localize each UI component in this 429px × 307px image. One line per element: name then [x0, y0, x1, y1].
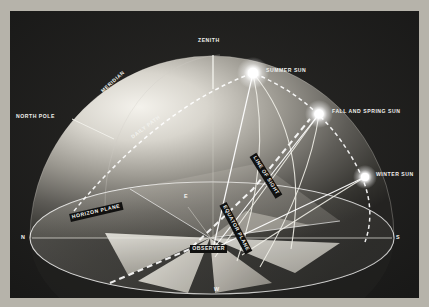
observer-label: OBSERVER: [190, 245, 227, 253]
compass-west-label: W: [214, 287, 219, 292]
zenith-label: ZENITH: [198, 38, 220, 43]
north-pole-label: NORTH POLE: [16, 114, 55, 119]
winter-sun-label: WINTER SUN: [376, 172, 414, 177]
sun-fall-spring: [305, 100, 333, 128]
diagram-canvas: [10, 11, 419, 298]
fall-spring-sun-label: FALL AND SPRING SUN: [332, 109, 400, 114]
compass-east-label: E: [184, 194, 188, 199]
compass-south-label: S: [396, 235, 400, 240]
figure-stage: ZENITH SUMMER SUN FALL AND SPRING SUN WI…: [0, 0, 429, 307]
summer-sun-label: SUMMER SUN: [266, 68, 306, 73]
celestial-sphere-diagram: ZENITH SUMMER SUN FALL AND SPRING SUN WI…: [10, 11, 419, 298]
sun-summer: [237, 57, 269, 89]
compass-north-label: N: [21, 235, 25, 240]
sun-winter: [353, 165, 377, 189]
